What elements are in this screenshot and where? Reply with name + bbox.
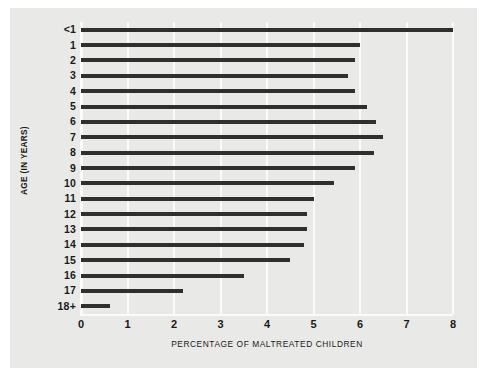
x-axis-tick-labels: 012345678: [81, 318, 453, 334]
bar: [81, 151, 374, 155]
y-tick-label: 13: [16, 223, 76, 235]
bar: [81, 289, 183, 293]
y-tick-label: <1: [16, 23, 76, 35]
bar-row: [81, 299, 453, 314]
bar-row: [81, 268, 453, 283]
bar: [81, 304, 110, 308]
bar-row: [81, 160, 453, 175]
x-axis-line: [80, 314, 453, 316]
chart-figure: AGE (IN YEARS) <112345678910111213141516…: [10, 8, 477, 368]
x-tick-label: 1: [113, 318, 143, 330]
bar-row: [81, 99, 453, 114]
plot-area: [81, 22, 453, 314]
bar-row: [81, 114, 453, 129]
bar: [81, 89, 355, 93]
y-axis-tick-labels: <1123456789101112131415161718+: [10, 22, 76, 314]
y-tick-label: 11: [16, 192, 76, 204]
bar-row: [81, 83, 453, 98]
bar-row: [81, 22, 453, 37]
bar: [81, 212, 307, 216]
x-tick-label: 7: [392, 318, 422, 330]
x-tick-label: 6: [345, 318, 375, 330]
bar-row: [81, 191, 453, 206]
bar: [81, 135, 383, 139]
bar-row: [81, 283, 453, 298]
x-tick-label: 5: [299, 318, 329, 330]
y-tick-label: 17: [16, 284, 76, 296]
bar: [81, 197, 314, 201]
y-tick-label: 2: [16, 54, 76, 66]
bar-row: [81, 176, 453, 191]
bar-row: [81, 237, 453, 252]
x-tick-label: 8: [438, 318, 468, 330]
y-tick-label: 15: [16, 254, 76, 266]
y-tick-label: 10: [16, 177, 76, 189]
bar-row: [81, 222, 453, 237]
y-tick-label: 7: [16, 131, 76, 143]
x-tick-label: 0: [66, 318, 96, 330]
bar: [81, 258, 290, 262]
bar: [81, 166, 355, 170]
bar-row: [81, 68, 453, 83]
bar: [81, 43, 360, 47]
y-tick-label: 8: [16, 146, 76, 158]
y-tick-label: 1: [16, 39, 76, 51]
x-tick-label: 3: [206, 318, 236, 330]
y-tick-label: 18+: [16, 300, 76, 312]
x-tick-label: 2: [159, 318, 189, 330]
bar-row: [81, 145, 453, 160]
bar-row: [81, 37, 453, 52]
y-tick-label: 3: [16, 69, 76, 81]
bar: [81, 74, 348, 78]
bar-row: [81, 206, 453, 221]
x-tick-label: 4: [252, 318, 282, 330]
bar-row: [81, 53, 453, 68]
bar-row: [81, 130, 453, 145]
y-tick-label: 6: [16, 115, 76, 127]
bar: [81, 227, 307, 231]
bar: [81, 28, 453, 32]
y-tick-label: 9: [16, 162, 76, 174]
bar: [81, 181, 334, 185]
bar: [81, 105, 367, 109]
y-tick-label: 4: [16, 85, 76, 97]
bar-row: [81, 253, 453, 268]
bar: [81, 274, 244, 278]
y-tick-label: 16: [16, 269, 76, 281]
x-axis-title: PERCENTAGE OF MALTREATED CHILDREN: [81, 339, 453, 349]
y-tick-label: 14: [16, 238, 76, 250]
bar: [81, 58, 355, 62]
y-tick-label: 12: [16, 208, 76, 220]
bar: [81, 120, 376, 124]
bar: [81, 243, 304, 247]
y-tick-label: 5: [16, 100, 76, 112]
